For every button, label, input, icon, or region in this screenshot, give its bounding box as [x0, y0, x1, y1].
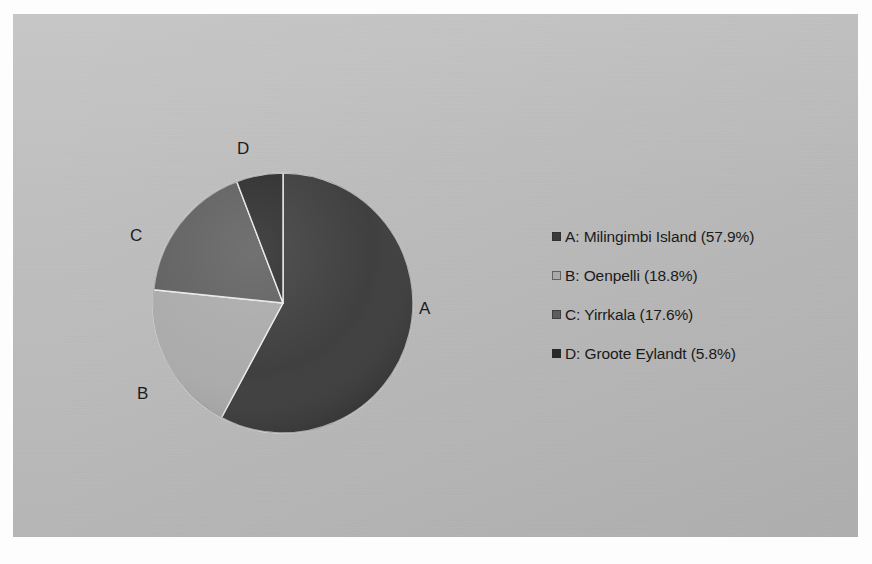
legend-item: B: Oenpelli (18.8%) — [552, 256, 852, 295]
slice-callout-d: D — [237, 140, 249, 157]
pie-shading — [153, 173, 413, 433]
screenshot-root: A B C D A: Milingimbi Island (57.9%) B: … — [0, 0, 872, 564]
pie-svg — [152, 172, 414, 434]
slice-callout-c: C — [130, 227, 142, 244]
legend-label-a: A: Milingimbi Island (57.9%) — [565, 228, 754, 246]
legend-swatch-d-icon — [552, 349, 561, 358]
legend-swatch-c-icon — [552, 310, 561, 319]
legend-swatch-a-icon — [552, 232, 561, 241]
slice-callout-b: B — [137, 385, 149, 402]
legend-label-d: D: Groote Eylandt (5.8%) — [565, 345, 736, 363]
legend-label-b: B: Oenpelli (18.8%) — [565, 267, 698, 285]
legend-swatch-b-icon — [552, 271, 561, 280]
legend-item: A: Milingimbi Island (57.9%) — [552, 217, 852, 256]
slice-callout-a: A — [419, 300, 431, 317]
chart-canvas: A B C D A: Milingimbi Island (57.9%) B: … — [13, 14, 858, 537]
legend-item: D: Groote Eylandt (5.8%) — [552, 334, 852, 373]
chart-legend: A: Milingimbi Island (57.9%) B: Oenpelli… — [552, 217, 852, 373]
pie-chart — [152, 172, 414, 434]
legend-label-c: C: Yirrkala (17.6%) — [565, 306, 693, 324]
legend-item: C: Yirrkala (17.6%) — [552, 295, 852, 334]
